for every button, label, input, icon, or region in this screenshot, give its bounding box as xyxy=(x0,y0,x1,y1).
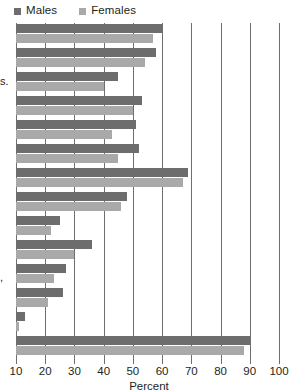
category-label-fragment-1: , xyxy=(0,272,3,283)
category-label-fragment-0: s. xyxy=(0,76,9,87)
x-tick-50 xyxy=(133,359,134,364)
x-tick-100 xyxy=(279,359,280,364)
bar-males xyxy=(16,216,60,225)
x-tick-20 xyxy=(45,359,46,364)
legend-entry-females: Females xyxy=(79,5,136,17)
legend-label-males: Males xyxy=(26,5,57,17)
x-tick-label-30: 30 xyxy=(59,365,89,377)
bar-group xyxy=(16,23,279,47)
x-tick-label-60: 60 xyxy=(147,365,177,377)
bar-group xyxy=(16,47,279,71)
gridline-100 xyxy=(279,23,280,359)
bar-females xyxy=(16,106,133,115)
chart-legend: Males Females xyxy=(0,0,298,22)
plot-area xyxy=(16,23,279,359)
x-tick-label-50: 50 xyxy=(118,365,148,377)
x-tick-90 xyxy=(250,359,251,364)
bar-group xyxy=(16,191,279,215)
bar-group xyxy=(16,167,279,191)
x-tick-10 xyxy=(16,359,17,364)
bar-group xyxy=(16,215,279,239)
x-tick-label-70: 70 xyxy=(176,365,206,377)
bar-group xyxy=(16,311,279,335)
bar-males xyxy=(16,264,66,273)
legend-entry-males: Males xyxy=(14,5,57,17)
square-swatch-icon xyxy=(79,8,86,15)
bar-females xyxy=(16,130,112,139)
x-tick-label-90: 90 xyxy=(235,365,265,377)
bar-group xyxy=(16,263,279,287)
bar-group xyxy=(16,143,279,167)
bar-males xyxy=(16,72,118,81)
bar-males xyxy=(16,312,25,321)
x-axis-title: Percent xyxy=(0,380,298,392)
bar-group xyxy=(16,287,279,311)
bar-group xyxy=(16,119,279,143)
x-tick-label-100: 100 xyxy=(264,365,294,377)
bar-females xyxy=(16,250,74,259)
bar-males xyxy=(16,192,127,201)
x-tick-80 xyxy=(221,359,222,364)
x-tick-30 xyxy=(74,359,75,364)
bar-females xyxy=(16,34,153,43)
bar-males xyxy=(16,144,139,153)
bar-rows xyxy=(16,23,279,359)
bar-males xyxy=(16,24,162,33)
bar-males xyxy=(16,48,156,57)
bar-group xyxy=(16,239,279,263)
bar-females xyxy=(16,298,48,307)
bar-males xyxy=(16,240,92,249)
x-tick-70 xyxy=(191,359,192,364)
grouped-bar-chart: Males Females Percent 102030405060708090… xyxy=(0,0,298,392)
bar-females xyxy=(16,274,54,283)
bar-females xyxy=(16,346,244,355)
bar-females xyxy=(16,82,104,91)
x-tick-60 xyxy=(162,359,163,364)
bar-group xyxy=(16,335,279,359)
square-swatch-icon xyxy=(14,8,21,15)
x-tick-40 xyxy=(104,359,105,364)
bar-males xyxy=(16,96,142,105)
bar-females xyxy=(16,178,183,187)
bar-females xyxy=(16,58,145,67)
bar-females xyxy=(16,202,121,211)
x-tick-label-80: 80 xyxy=(206,365,236,377)
bar-males xyxy=(16,288,63,297)
bar-group xyxy=(16,71,279,95)
bar-males xyxy=(16,336,250,345)
bar-females xyxy=(16,226,51,235)
x-tick-label-20: 20 xyxy=(30,365,60,377)
bar-females xyxy=(16,322,19,331)
bar-females xyxy=(16,154,118,163)
x-axis: Percent 102030405060708090100 xyxy=(0,359,298,392)
bar-group xyxy=(16,95,279,119)
x-tick-label-10: 10 xyxy=(1,365,31,377)
bar-males xyxy=(16,120,136,129)
legend-label-females: Females xyxy=(91,5,136,17)
bar-males xyxy=(16,168,188,177)
x-tick-label-40: 40 xyxy=(89,365,119,377)
